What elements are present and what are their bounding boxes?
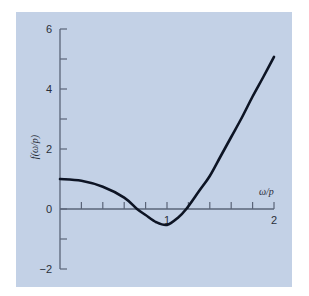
y-tick-label: 6 <box>46 23 52 35</box>
y-tick-label: 4 <box>46 83 52 95</box>
y-tick-label: 0 <box>46 203 52 215</box>
line-chart: 6420−212 ω/p f(ω/p) <box>0 0 309 296</box>
y-axis-label: f(ω/p) <box>29 134 41 159</box>
x-axis-label: ω/p <box>259 186 274 197</box>
plot-panel <box>16 12 292 287</box>
y-tick-label: 2 <box>46 143 52 155</box>
x-tick-label: 2 <box>271 214 277 226</box>
y-tick-label: −2 <box>39 263 52 275</box>
